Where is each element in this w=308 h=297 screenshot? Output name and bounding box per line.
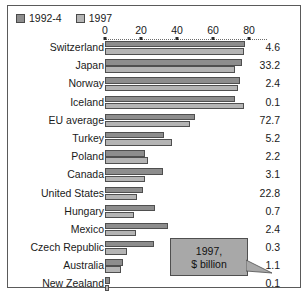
callout-pointer-icon	[246, 259, 276, 279]
data-label-value: 0.1	[228, 96, 280, 108]
legend-item-1992-4: 1992-4	[16, 13, 62, 23]
category-label: Japan	[0, 59, 104, 71]
bar-series-1992-4	[105, 241, 154, 247]
category-label: Czech Republic	[0, 241, 104, 253]
bar-series-1997	[105, 212, 134, 218]
legend-label-1992-4: 1992-4	[29, 13, 62, 23]
category-label: Iceland	[0, 96, 104, 108]
category-label: Switzerland	[0, 41, 104, 53]
bar-series-1997	[105, 85, 238, 91]
chart-row: Iceland0.1	[0, 94, 294, 112]
axis-tick-label: 0	[102, 24, 108, 36]
bar-series-1992-4	[105, 168, 163, 174]
legend-swatch-icon-1992-4	[16, 14, 25, 23]
axis-tick-label: 40	[171, 24, 183, 36]
category-label: United States	[0, 187, 104, 199]
category-label: New Zealand	[0, 277, 104, 289]
bar-series-1992-4	[105, 96, 235, 102]
callout-line-1: 1997,	[196, 245, 222, 257]
bar-series-1992-4	[105, 132, 164, 138]
data-label-value: 4.6	[228, 41, 280, 53]
bar-series-1997	[105, 194, 137, 200]
bar-series-1992-4	[105, 77, 240, 83]
axis-tick-label: 20	[135, 24, 147, 36]
callout-line-2: $ billion	[191, 258, 227, 270]
bar-series-1997	[105, 248, 127, 254]
chart-legend: 1992-4 1997	[16, 11, 112, 25]
bar-series-1992-4	[105, 223, 168, 229]
bar-series-1997	[105, 66, 235, 72]
bar-series-1997	[105, 176, 145, 182]
bar-series-1997	[105, 266, 121, 272]
category-label: Canada	[0, 168, 104, 180]
chart-row: Japan33.2	[0, 57, 294, 75]
category-label: Turkey	[0, 132, 104, 144]
bar-series-1992-4	[105, 41, 245, 47]
bar-series-1992-4	[105, 205, 155, 211]
chart-row: EU average72.7	[0, 112, 294, 130]
bar-series-1992-4	[105, 114, 195, 120]
data-label-value: 2.4	[228, 223, 280, 235]
data-label-value: 0.1	[228, 277, 280, 289]
data-label-value: 2.2	[228, 150, 280, 162]
category-label: Norway	[0, 77, 104, 89]
data-label-value: 72.7	[228, 114, 280, 126]
data-label-value: 5.2	[228, 132, 280, 144]
data-label-value: 3.1	[228, 168, 280, 180]
bar-series-1997	[105, 230, 136, 236]
bar-series-1992-4	[105, 187, 143, 193]
legend-label-1997: 1997	[89, 13, 112, 23]
category-label: EU average	[0, 114, 104, 126]
axis-tick-label: 80	[243, 24, 255, 36]
data-label-value: 22.8	[228, 187, 280, 199]
bar-series-1997	[105, 103, 244, 109]
data-label-value: 33.2	[228, 59, 280, 71]
value-column-callout: 1997, $ billion	[170, 238, 248, 276]
data-label-value: 2.4	[228, 77, 280, 89]
chart-row: United States22.8	[0, 185, 294, 203]
chart-row: Czech Republic0.3	[0, 239, 294, 257]
data-label-value: 0.7	[228, 205, 280, 217]
legend-swatch-icon-1997	[76, 14, 85, 23]
chart-row: Hungary0.7	[0, 203, 294, 221]
chart-row: Mexico2.4	[0, 221, 294, 239]
bar-series-1992-4	[105, 150, 145, 156]
chart-row: Turkey5.2	[0, 130, 294, 148]
chart-row: Poland2.2	[0, 148, 294, 166]
chart-figure: 1992-4 1997 020406080 Switzerland4.6Japa…	[0, 0, 308, 297]
category-label: Australia	[0, 259, 104, 271]
bar-series-1997	[105, 157, 148, 163]
chart-row: Norway2.4	[0, 75, 294, 93]
legend-item-1997: 1997	[76, 13, 112, 23]
bar-series-1992-4	[105, 259, 123, 265]
bar-series-1997	[105, 48, 244, 54]
bar-series-1992-4	[105, 277, 110, 283]
category-label: Poland	[0, 150, 104, 162]
chart-row: Switzerland4.6	[0, 39, 294, 57]
axis-tick-label: 60	[207, 24, 219, 36]
chart-row: Canada3.1	[0, 166, 294, 184]
bar-series-1997	[105, 285, 109, 291]
bar-series-1997	[105, 139, 172, 145]
bar-series-1992-4	[105, 59, 242, 65]
category-label: Hungary	[0, 205, 104, 217]
chart-plot-area: Switzerland4.6Japan33.2Norway2.4Iceland0…	[0, 39, 294, 294]
bar-series-1997	[105, 121, 190, 127]
category-label: Mexico	[0, 223, 104, 235]
